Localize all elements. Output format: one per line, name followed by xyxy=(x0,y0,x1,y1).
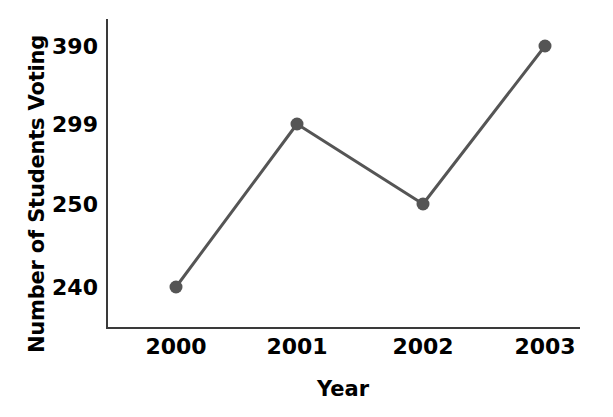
data-point-2002 xyxy=(417,198,430,211)
data-point-2001 xyxy=(291,118,304,131)
x-axis-title: Year xyxy=(106,377,580,401)
x-axis-line xyxy=(106,327,580,329)
data-series-line xyxy=(176,46,545,287)
data-point-2003 xyxy=(539,40,552,53)
data-point-markers xyxy=(170,40,552,294)
data-point-2000 xyxy=(170,281,183,294)
x-tick-label-2001: 2001 xyxy=(247,334,347,359)
x-tick-label-2000: 2000 xyxy=(126,334,226,359)
x-tick-label-2003: 2003 xyxy=(495,334,595,359)
x-tick-label-2002: 2002 xyxy=(373,334,473,359)
line-chart: 390 299 250 240 2000 2001 2002 2003 Numb… xyxy=(0,0,613,417)
y-axis-line xyxy=(106,19,108,329)
y-axis-title: Number of Students Voting xyxy=(16,29,58,359)
